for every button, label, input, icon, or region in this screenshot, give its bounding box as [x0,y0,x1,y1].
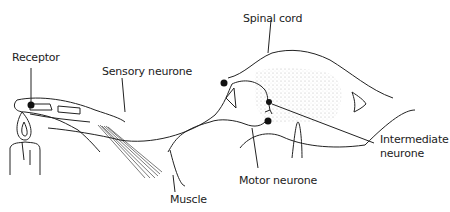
intermediate-neurone-label-1: Intermediate [380,134,449,146]
reflex-arc-diagram [0,0,450,212]
candle-flame [17,112,31,140]
sensory-neurone-label: Sensory neurone [102,66,192,78]
ventricle-left [226,88,236,108]
candle [10,142,40,175]
muscle-label: Muscle [170,194,207,206]
ventricle-right [352,92,366,112]
muscle-fibres [98,125,162,178]
intermediate-dot [266,99,272,105]
motor-dot [265,118,272,125]
spinal-cord-label: Spinal cord [243,13,302,25]
sensory-synapse-dot [221,80,228,87]
intermediate-neurone-label-2: neurone [380,148,424,160]
motor-neurone-label: Motor neurone [239,175,317,187]
motor-neurone-path [168,120,267,152]
receptor-dot [28,102,35,109]
receptor-label: Receptor [12,52,60,64]
ventral-fissure [292,122,302,158]
